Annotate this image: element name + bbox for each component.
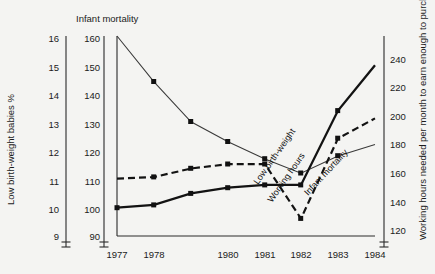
xtick-1981: 1981	[254, 249, 275, 260]
tick-wh-180: 180	[390, 139, 406, 150]
tick-lbp-13: 13	[48, 119, 59, 130]
xtick-1978: 1978	[143, 249, 164, 260]
tick-lbp-15: 15	[48, 62, 59, 73]
tick-wh-160: 160	[390, 168, 406, 179]
tick-im-160: 160	[84, 33, 100, 44]
chart-figure: 16 15 14 13 12 11 10 9 Low birth-weight …	[0, 0, 435, 274]
tick-wh-240: 240	[390, 54, 406, 65]
tick-im-150: 150	[84, 62, 100, 73]
tick-wh-120: 120	[390, 225, 406, 236]
axis-right: 240 220 200 180 160 140 120 Working hour…	[380, 0, 429, 247]
tick-im-100: 100	[84, 204, 100, 215]
axis-title-infant-mortality: Infant mortality	[76, 13, 139, 24]
tick-lbp-14: 14	[48, 90, 59, 101]
xtick-1983: 1983	[327, 249, 348, 260]
axis-left-primary: 16 15 14 13 12 11 10 9 Low birth-weight …	[5, 33, 71, 247]
xtick-1980: 1980	[217, 249, 238, 260]
xtick-1982: 1982	[290, 249, 311, 260]
tick-lbp-12: 12	[48, 147, 59, 158]
tick-lbp-10: 10	[48, 204, 59, 215]
tick-im-120: 120	[84, 147, 100, 158]
axis-title-working-hours: Working hours needed per month to earn e…	[417, 0, 428, 240]
tick-im-140: 140	[84, 90, 100, 101]
series-infant-mortality: Infant mortality	[117, 36, 375, 197]
axis-title-low-birth-weight: Low birth-weight babies %	[5, 94, 16, 205]
tick-lbp-9: 9	[54, 231, 59, 242]
tick-im-90: 90	[89, 231, 100, 242]
tick-im-130: 130	[84, 119, 100, 130]
tick-lbp-11: 11	[49, 176, 59, 187]
tick-wh-200: 200	[390, 111, 406, 122]
tick-im-110: 110	[85, 176, 100, 187]
tick-wh-140: 140	[390, 197, 406, 208]
chart-svg: 16 15 14 13 12 11 10 9 Low birth-weight …	[0, 0, 435, 274]
xtick-1984: 1984	[364, 249, 385, 260]
series-label-infant-mortality: Infant mortality	[302, 147, 350, 197]
tick-lbp-16: 16	[48, 33, 59, 44]
xtick-1977: 1977	[106, 249, 127, 260]
tick-wh-220: 220	[390, 82, 406, 93]
axis-x: 1977 1978 1980 1981 1982 1983 1984	[106, 249, 385, 260]
axis-left-secondary: 160 150 140 130 120 110 100 90 Infant mo…	[76, 13, 139, 247]
